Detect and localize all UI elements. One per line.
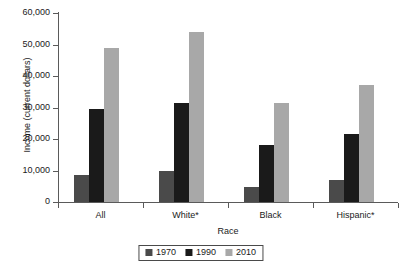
bar-all-1990 <box>89 109 104 202</box>
x-axis-category-label: White* <box>141 210 231 220</box>
y-axis-tick-label: 20,000 <box>0 134 50 143</box>
bar-white-1970 <box>159 171 174 203</box>
y-axis-tick-label: 10,000 <box>0 166 50 175</box>
x-axis-tick <box>228 203 229 208</box>
x-axis-category-label: Black <box>226 210 316 220</box>
bar-white-1990 <box>174 103 189 202</box>
y-axis-tick-label: 40,000 <box>0 71 50 80</box>
bar-chart: Income (current dollars) 010,00020,00030… <box>0 0 401 270</box>
bar-white-2010 <box>189 32 204 202</box>
legend-swatch-icon <box>185 249 192 256</box>
legend-item-1990[interactable]: 1990 <box>185 248 216 257</box>
legend-label: 2010 <box>236 248 256 257</box>
x-axis-category-label: Hispanic* <box>311 210 401 220</box>
x-axis-tick <box>313 203 314 208</box>
plot-area <box>58 13 398 202</box>
bar-black-1970 <box>244 187 259 202</box>
y-axis-tick-label: 30,000 <box>0 103 50 112</box>
x-axis-tick <box>143 203 144 208</box>
legend-swatch-icon <box>145 249 152 256</box>
bar-black-1990 <box>259 145 274 202</box>
legend-swatch-icon <box>225 249 232 256</box>
x-axis-category-label: All <box>56 210 146 220</box>
legend-item-1970[interactable]: 1970 <box>145 248 176 257</box>
x-axis-tick <box>58 203 59 208</box>
legend-label: 1970 <box>156 248 176 257</box>
y-axis-tick-label: 50,000 <box>0 40 50 49</box>
bar-hispanic-2010 <box>359 85 374 202</box>
bar-all-2010 <box>104 48 119 202</box>
bar-hispanic-1970 <box>329 180 344 202</box>
y-axis-tick-label: 0 <box>0 197 50 206</box>
chart-legend: 197019902010 <box>138 245 263 261</box>
legend-label: 1990 <box>196 248 216 257</box>
x-axis-tick <box>398 203 399 208</box>
bar-all-1970 <box>74 175 89 202</box>
y-axis-tick-label: 60,000 <box>0 8 50 17</box>
x-axis-title: Race <box>58 226 398 236</box>
bar-black-2010 <box>274 103 289 202</box>
bar-hispanic-1990 <box>344 134 359 202</box>
legend-item-2010[interactable]: 2010 <box>225 248 256 257</box>
